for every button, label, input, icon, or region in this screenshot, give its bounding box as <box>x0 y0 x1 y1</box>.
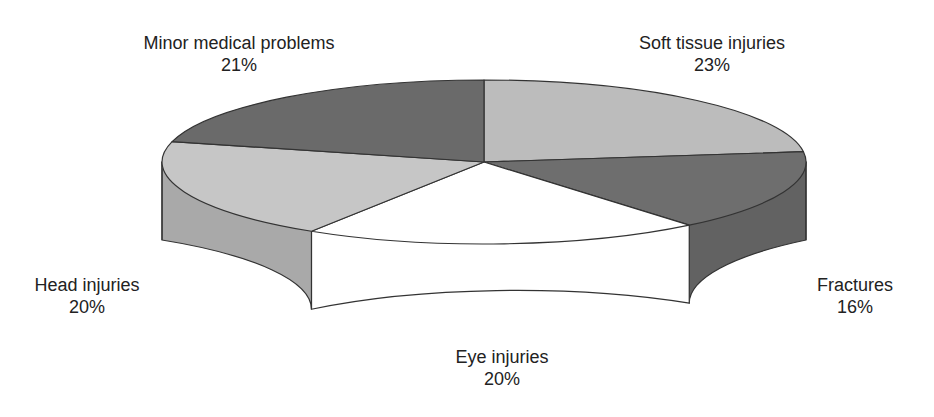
slice-name: Minor medical problems <box>143 32 334 54</box>
slice-percent: 21% <box>143 54 334 76</box>
slice-name: Soft tissue injuries <box>639 32 785 54</box>
slice-percent: 20% <box>455 368 548 390</box>
slice-name: Fractures <box>817 274 893 296</box>
label-eye-injuries: Eye injuries 20% <box>455 346 548 390</box>
slice-percent: 23% <box>639 54 785 76</box>
slice-name: Eye injuries <box>455 346 548 368</box>
slice-top-soft-tissue-injuries <box>484 80 803 162</box>
label-head-injuries: Head injuries 20% <box>34 274 139 318</box>
pie-top-faces <box>162 80 806 244</box>
label-minor-medical-problems: Minor medical problems 21% <box>143 32 334 76</box>
label-fractures: Fractures 16% <box>817 274 893 318</box>
slice-name: Head injuries <box>34 274 139 296</box>
label-soft-tissue-injuries: Soft tissue injuries 23% <box>639 32 785 76</box>
slice-percent: 20% <box>34 296 139 318</box>
slice-percent: 16% <box>817 296 893 318</box>
